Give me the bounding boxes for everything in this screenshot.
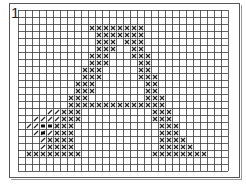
half-stitch-icon	[48, 110, 52, 114]
half-stitch-icon	[41, 145, 45, 149]
french-knot-icon	[41, 132, 45, 135]
half-stitch-icon	[55, 110, 59, 114]
half-stitch-icon	[34, 131, 38, 135]
half-stitch-icon	[48, 117, 52, 121]
half-stitch-icon	[27, 124, 31, 128]
stitch-grid	[18, 10, 229, 172]
grid-canvas	[18, 10, 229, 172]
half-stitch-icon	[41, 138, 45, 142]
half-stitch-icon	[34, 117, 38, 121]
half-stitch-icon	[48, 131, 52, 135]
french-knot-icon	[48, 125, 52, 128]
half-stitch-icon	[41, 117, 45, 121]
half-stitch-icon	[34, 124, 38, 128]
half-stitch-icon	[55, 117, 59, 121]
french-knot-icon	[41, 125, 45, 128]
